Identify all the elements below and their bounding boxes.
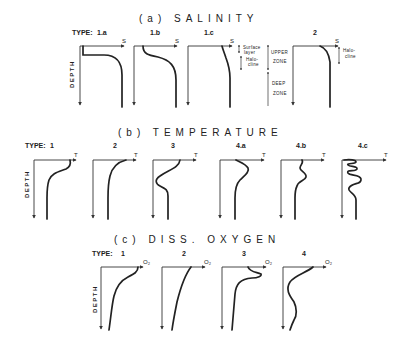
salinity-zone-annotations: Surface layer Halo- cline UPPER ZONE DEE… — [239, 45, 290, 106]
panel-label: 1 — [50, 142, 54, 149]
oxygen-panel-3: 3 O₂ — [222, 250, 273, 330]
salinity-panel-2: 2 S Halo- cline — [293, 29, 357, 107]
temperature-panel-4b: 4.b T — [281, 142, 326, 219]
temperature-curve — [108, 160, 126, 219]
salinity-depth-label: DEPTH — [69, 60, 75, 88]
temperature-panel-1: 1 T — [34, 142, 78, 219]
axis-symbol: O₂ — [325, 259, 333, 265]
oxygen-curve — [172, 267, 191, 330]
axis-symbol: T — [262, 152, 266, 158]
temperature-curve — [156, 160, 180, 219]
panel-label: 1 — [121, 250, 125, 257]
deep-line1: DEEP — [272, 81, 285, 86]
oxygen-panel-2: 2 O₂ — [162, 250, 212, 330]
salinity-panel-1c: 1.c S — [188, 29, 234, 107]
oxygen-curve — [288, 267, 313, 330]
deep-zone-label: DEEP ZONE — [272, 81, 287, 96]
panel-label: 1.b — [150, 29, 160, 36]
panel-label: 3 — [242, 250, 246, 257]
salinity-curve — [320, 46, 330, 107]
salinity-curve — [83, 46, 122, 107]
temperature-panel-2: 2 T — [93, 142, 138, 219]
panel-label: 3 — [171, 142, 175, 149]
temperature-depth-label: DEPTH — [24, 170, 30, 198]
upper-zone-label: UPPER ZONE — [271, 50, 290, 64]
axis-symbol: O₂ — [204, 259, 212, 265]
oxygen-curve — [109, 267, 138, 330]
oxygen-type-prefix: TYPE: — [92, 250, 113, 257]
temperature-section: (b) TEMPERATURE TYPE: DEPTH 1 T 2 T 3 T — [24, 127, 388, 219]
oxygen-section: (c) DISS. OXYGEN TYPE: DEPTH 1 O₂ 2 O₂ 3… — [92, 234, 333, 330]
upper-line2: ZONE — [273, 59, 287, 64]
axis-symbol: S — [122, 38, 126, 44]
salinity-section: (a) SALINITY TYPE: DEPTH 1.a S 1.b S 1.c… — [69, 13, 357, 107]
axis-symbol: T — [74, 152, 78, 158]
axis-symbol: S — [335, 38, 339, 44]
axis-symbol: T — [322, 152, 326, 158]
oxygen-title: (c) DISS. OXYGEN — [114, 234, 280, 245]
halocline2-line1: Halo- — [343, 48, 355, 53]
panel-label: 1.c — [204, 29, 214, 36]
halocline2-line2: cline — [345, 54, 356, 59]
surface-layer-label: Surface layer — [243, 45, 262, 55]
temperature-panel-4c: 4.c T — [342, 142, 388, 219]
salinity-type-prefix: TYPE: — [72, 29, 93, 36]
temperature-curve — [344, 160, 361, 219]
vertical-profile-diagram: (a) SALINITY TYPE: DEPTH 1.a S 1.b S 1.c… — [0, 0, 409, 350]
surface-label-line2: layer — [244, 50, 255, 55]
temperature-type-prefix: TYPE: — [25, 142, 46, 149]
axis-symbol: S — [175, 38, 179, 44]
salinity-panel-1b: 1.b S — [134, 29, 179, 107]
temperature-panel-3: 3 T — [153, 142, 198, 219]
temperature-curve — [295, 160, 306, 219]
panel-label: 1.a — [97, 29, 107, 36]
halocline-label-type2: Halo- cline — [343, 48, 357, 59]
salinity-title: (a) SALINITY — [139, 13, 258, 24]
panel-label: 4.a — [236, 142, 246, 149]
temperature-curve — [47, 160, 70, 219]
oxygen-panel-4: 4 O₂ — [283, 250, 333, 330]
panel-label: 4 — [302, 250, 306, 257]
axis-symbol: T — [384, 152, 388, 158]
temperature-title: (b) TEMPERATURE — [118, 127, 283, 138]
halocline-label: Halo- cline — [246, 57, 260, 67]
axis-symbol: S — [230, 38, 234, 44]
oxygen-depth-label: DEPTH — [92, 285, 98, 313]
axis-symbol: T — [194, 152, 198, 158]
panel-label: 4.c — [358, 142, 368, 149]
axis-symbol: O₂ — [143, 259, 151, 265]
oxygen-panel-1: 1 O₂ — [101, 250, 151, 330]
salinity-panel-1a: 1.a S — [80, 29, 126, 107]
salinity-curve — [222, 46, 230, 107]
oxygen-curve — [232, 267, 261, 330]
panel-label: 4.b — [296, 142, 306, 149]
axis-symbol: O₂ — [265, 259, 273, 265]
deep-line2: ZONE — [273, 91, 287, 96]
panel-label: 2 — [182, 250, 186, 257]
panel-label: 2 — [113, 142, 117, 149]
temperature-panel-4a: 4.a T — [220, 142, 266, 219]
temperature-curve — [235, 160, 248, 219]
panel-label: 2 — [313, 29, 317, 36]
upper-line1: UPPER — [271, 50, 288, 55]
axis-symbol: T — [134, 152, 138, 158]
salinity-curve — [143, 46, 176, 107]
halocline-line2: cline — [248, 62, 259, 67]
